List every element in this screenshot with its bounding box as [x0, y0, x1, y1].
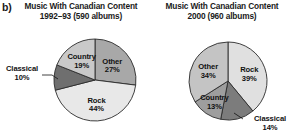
- pie-label-classical: Classical10%: [6, 64, 38, 82]
- chart-panel-1992: Music With Canadian Content 1992–93 (590…: [0, 0, 148, 135]
- chart-panel-2000: Music With Canadian Content 2000 (960 al…: [148, 0, 296, 135]
- figure-panel-b: b) Music With Canadian Content 1992–93 (…: [0, 0, 296, 135]
- pie-chart-1: Other27%Rock44%Classical10%Country19%: [0, 0, 148, 135]
- pie-chart-2: Rock39%Classical14%Country13%Other34%: [148, 0, 296, 135]
- pie-label-other: Other27%: [102, 57, 122, 75]
- pie-label-rock: Rock44%: [87, 96, 106, 114]
- pie-label-other: Other34%: [198, 62, 218, 80]
- pie-label-rock: Rock39%: [240, 65, 259, 83]
- pie-label-classical: Classical14%: [254, 114, 286, 132]
